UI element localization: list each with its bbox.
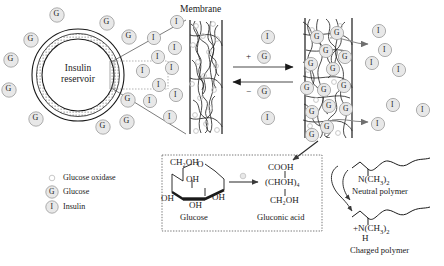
glucose-ch2oh-group: CH₂OH: [170, 157, 199, 167]
legend-glucose-glyph: G: [49, 187, 54, 196]
glucose-glyph: G: [308, 59, 313, 68]
glucose-glyph: G: [8, 54, 14, 63]
insulin-glyph: I: [174, 90, 177, 99]
insulin-glyph: I: [175, 17, 178, 26]
glucose-glyph: G: [334, 28, 339, 37]
insulin-glyph: I: [391, 100, 394, 109]
glucose-glyph: G: [321, 85, 326, 94]
legend-label-glucose-oxidase: Glucose oxidase: [63, 173, 116, 182]
glucose-glyph: G: [104, 17, 110, 26]
insulin-glyph: I: [152, 33, 155, 42]
glucose-oxidase-icon: [240, 173, 246, 179]
product-ch2oh: CH₂OH: [270, 195, 299, 205]
glucose-oh-bottom: OH: [189, 200, 202, 210]
glucose-glyph: G: [324, 122, 329, 131]
insulin-molecules-released: [365, 24, 429, 130]
reverse-glucose-glyph: G: [262, 87, 268, 96]
glucose-glyph: G: [309, 107, 314, 116]
insulin-glyph: I: [377, 26, 380, 35]
charged-polymer-hydrogen: H: [362, 233, 369, 243]
reservoir-label-line2: reservoir: [43, 74, 113, 85]
insulin-glyph: I: [148, 96, 151, 105]
insulin-glyph: I: [266, 113, 269, 122]
legend-insulin-glyph: I: [51, 202, 54, 211]
glucose-glyph: G: [54, 9, 60, 18]
legend-label-glucose: Glucose: [63, 187, 89, 196]
glucose-oh-lower-left: OH: [161, 193, 174, 203]
glucose-glyph: G: [33, 113, 39, 122]
glucose-caption: Glucose: [180, 212, 208, 222]
catalysis-arrow: [229, 173, 258, 182]
gluconic-acid-caption: Gluconic acid: [257, 212, 304, 222]
reservoir-label-line1: Insulin: [43, 63, 113, 74]
insulin-glyph: I: [173, 43, 176, 52]
glucose-glyph: G: [323, 46, 328, 55]
glucose-oh-upper-left: OH: [186, 174, 199, 184]
insulin-glyph: I: [170, 63, 173, 72]
small-open-circle-icon: [49, 175, 55, 181]
charged-polymer-caption: Charged polymer: [350, 245, 409, 255]
neutral-polymer-formula: N(CH3)2: [358, 174, 390, 186]
insulin-glyph: I: [156, 52, 159, 61]
insulin-glyph: I: [376, 119, 379, 128]
product-cooh: COOH: [268, 162, 294, 172]
glucose-glyph: G: [342, 52, 347, 61]
insulin-glyph: I: [141, 66, 144, 75]
insulin-glyph: I: [168, 112, 171, 121]
glucose-glyph: G: [304, 83, 309, 92]
minus-sign: −: [246, 86, 251, 96]
equilibrium-arrows: [233, 67, 293, 82]
glucose-glyph: G: [126, 31, 132, 40]
glucose-glyph: G: [309, 130, 314, 139]
glucose-glyph: G: [125, 94, 131, 103]
insulin-glyph: I: [370, 58, 373, 67]
glucose-glyph: G: [28, 34, 34, 43]
membrane-collapsed: [190, 20, 222, 134]
insulin-glyph: I: [397, 65, 400, 74]
ring-oxygen-label: O: [197, 159, 204, 169]
glucose-glyph: G: [100, 121, 106, 130]
glucose-glyph: G: [314, 32, 319, 41]
reservoir-label: Insulin reservoir: [43, 63, 113, 85]
glucose-glyph: G: [326, 101, 331, 110]
glucose-glyph: G: [341, 81, 346, 90]
charged-polymer-formula: +N(CH3)2: [353, 223, 390, 235]
insulin-glyph: I: [266, 32, 269, 41]
forward-glucose-glyph: G: [262, 52, 268, 61]
glucose-glyph: G: [330, 64, 335, 73]
insulin-molecules-middle: [261, 30, 274, 124]
glucose-oh-right: OH: [212, 192, 225, 202]
insulin-glyph: I: [157, 80, 160, 89]
glucose-glyph: G: [6, 84, 12, 93]
legend-label-insulin: Insulin: [63, 202, 85, 211]
insulin-glyph: I: [421, 105, 424, 114]
plus-sign: +: [246, 51, 251, 61]
product-choh4: (CHOH)₄: [265, 177, 300, 187]
glucose-glyph: G: [343, 104, 348, 113]
membrane-title: Membrane: [180, 4, 221, 14]
polymer-equilibrium-arrows: [331, 166, 352, 211]
insulin-glyph: I: [383, 45, 386, 54]
glucose-glyph: G: [124, 116, 130, 125]
figure-canvas: Membrane Insulin reservoir G G G G G G G…: [0, 0, 444, 266]
reaction-pointer-arrow: [293, 141, 318, 160]
neutral-polymer-caption: Neutral polymer: [352, 186, 408, 196]
